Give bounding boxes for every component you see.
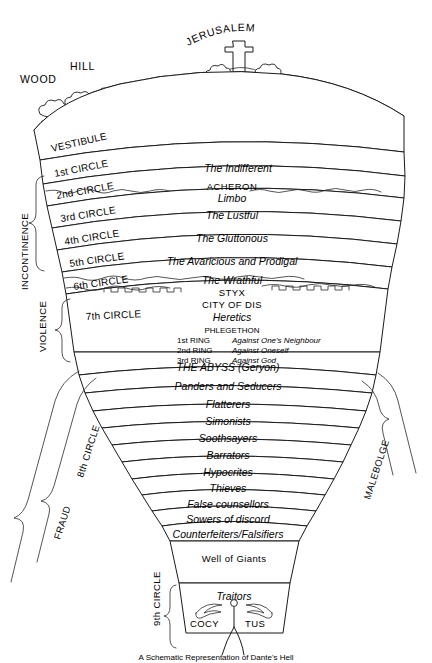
label-8th-circle: 8th CIRCLE [74,423,101,478]
bracket-malebolge [362,373,416,475]
label-wood: WOOD [20,73,57,85]
river-acheron: ACHERON [207,181,257,192]
label-abyss: THE ABYSS (Geryon) [177,361,280,373]
label-malebolge: MALEBOLGE [361,438,391,501]
bolgia-name-5: Barrators [206,449,250,461]
label-violence: VIOLENCE [37,301,48,352]
bolgia-name-2: Flatterers [206,398,251,410]
ring-sin-2: Against Oneself [231,346,289,355]
ring-label-2: 2nd RING [177,346,213,355]
ring-sin-1: Against One's Neighbour [231,336,321,345]
bracket-incontinence [29,176,44,271]
river-styx: STYX [219,287,246,298]
label-cocytus-left: COCY [190,618,219,629]
bolgia-name-8: False counsellors [187,498,269,510]
bolgia-name-3: Simonists [205,415,251,427]
label-hill: HILL [70,60,95,72]
tier-name-avaricious: The Avaricious and Prodigal [167,255,298,267]
tier-name-wrathful: The Wrathful [202,274,263,286]
tier-name-lustful: The Lustful [206,209,259,221]
bolgia-name-7: Thieves [210,482,248,494]
tier-stack [34,72,405,633]
ring-label-1: 1st RING [177,336,210,345]
bolgia-name-10: Counterfeiters/Falsifiers [173,528,285,540]
tier-name-gluttonous: The Gluttonous [196,232,269,244]
dante-hell-diagram: JERUSALEM HILL WOOD [0,0,432,663]
label-fraud: FRAUD [51,504,72,540]
label-incontinence: INCONTINENCE [19,213,30,290]
tier-name-heretics: Heretics [213,311,252,323]
label-well-of-giants: Well of Giants [202,553,267,564]
bolgia-name-9: Sowers of discord [186,513,271,525]
bolgia-name-1: Panders and Seducers [175,380,283,392]
tier-name-indifferent: The Indifferent [204,162,273,174]
label-cocytus-right: TUS [245,618,265,629]
label-9th-circle: 9th CIRCLE [151,571,162,626]
label-city-of-dis: CITY OF DIS [202,299,262,310]
figure-caption: A Schematic Representation of Dante's He… [139,653,294,662]
bolgia-name-4: Soothsayers [199,432,258,444]
bracket-9th-circle [164,585,176,648]
tier-name-limbo: Limbo [218,192,247,204]
river-phlegethon: PHLEGETHON [204,326,259,335]
bolgia-name-6: Hypocrites [203,466,253,478]
